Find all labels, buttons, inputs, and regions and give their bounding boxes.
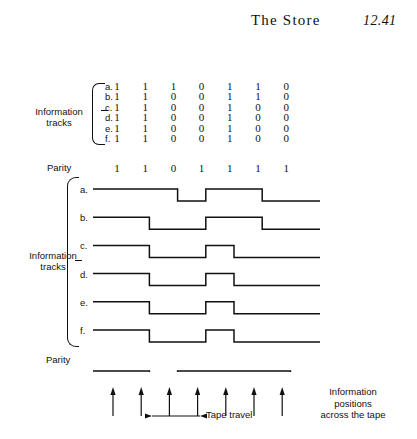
waveform-trace	[93, 245, 320, 257]
matrix-bit: 0	[168, 132, 178, 144]
info-positions-line1: Information	[329, 386, 377, 397]
matrix-group-label-line2: tracks	[46, 117, 71, 128]
waveform-trace	[93, 189, 320, 201]
info-positions-line3: across the tape	[321, 409, 386, 420]
parity-waveform-trace	[93, 371, 320, 372]
matrix-bit: 1	[112, 132, 122, 144]
matrix-bit: 1	[140, 132, 150, 144]
waveform-parity-label: Parity	[46, 354, 70, 365]
position-arrow	[280, 387, 285, 416]
position-arrow	[167, 387, 172, 416]
waveform-traces	[0, 172, 417, 372]
bottom-annotations: Tape travel Information positions across…	[0, 386, 417, 439]
waveform-trace	[93, 217, 320, 229]
matrix-group-label: Information tracks	[23, 106, 95, 128]
position-arrow	[110, 387, 115, 416]
position-arrow	[139, 387, 144, 416]
matrix-row-label: f.	[105, 133, 110, 144]
waveform-trace	[93, 274, 320, 286]
matrix-bit: 0	[197, 132, 207, 144]
waveform-trace	[93, 330, 320, 342]
matrix-bit: 0	[253, 132, 263, 144]
info-positions-label: Information positions across the tape	[297, 386, 409, 421]
page-header: The Store 12.41	[0, 12, 417, 34]
figure-page: The Store 12.41 Information tracks a.111…	[0, 0, 417, 439]
position-arrow	[195, 387, 200, 416]
tape-travel-label: Tape travel	[206, 409, 252, 420]
matrix-bit: 0	[281, 132, 291, 144]
matrix-brace	[92, 83, 105, 145]
info-positions-line2: positions	[334, 398, 372, 409]
waveform-trace	[93, 302, 320, 314]
page-title: The Store	[251, 12, 321, 29]
matrix-bit: 1	[225, 132, 235, 144]
matrix-group-label-line1: Information	[35, 106, 83, 117]
bit-matrix: Information tracks a.1110110b.1100110c.1…	[0, 40, 417, 145]
waveform-diagram: Information tracks a.b.c.d.e.f. Parity	[0, 172, 417, 372]
page-number: 12.41	[363, 13, 397, 29]
